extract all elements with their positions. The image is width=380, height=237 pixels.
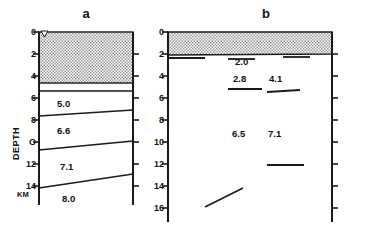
seismic-velocity-depth-figure: a DEPTH 0 2 4 6 8 O 12 14 KM 5.0 6.6 7.1… <box>0 0 380 237</box>
panel-b-segment-base-4-1 <box>267 90 300 92</box>
panel-b-hatched-layer <box>168 32 332 55</box>
panel-b-graphics <box>0 0 380 237</box>
panel-b-segment-deep-dipping <box>205 188 243 207</box>
